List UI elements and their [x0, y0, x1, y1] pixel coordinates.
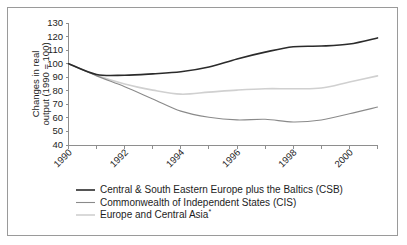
legend-footnote-marker: *	[208, 208, 211, 215]
y-tick-label-130: 130	[47, 17, 63, 28]
y-tick-label-70: 70	[52, 98, 63, 109]
chart-legend: Central & South Eastern Europe plus the …	[76, 184, 343, 220]
series-lines	[69, 38, 378, 122]
x-tick-label-1992: 1992	[107, 147, 130, 170]
y-tick-label-40: 40	[52, 139, 63, 150]
series-line-3	[69, 64, 378, 95]
y-tick-label-80: 80	[52, 85, 63, 96]
y-tick-label-90: 90	[52, 71, 63, 82]
legend-label-1: Central & South Eastern Europe plus the …	[100, 184, 343, 195]
y-tick-label-60: 60	[52, 112, 63, 123]
x-tick-label-2000: 2000	[332, 147, 355, 170]
y-axis-title-line-2: output (1990 = 100)	[40, 42, 51, 125]
series-line-2	[69, 64, 378, 122]
legend-label-2: Commonwealth of Independent States (CIS)	[100, 197, 296, 208]
x-tick-label-1996: 1996	[220, 147, 243, 170]
x-tick-label-1990: 1990	[51, 147, 74, 170]
x-tick-label-1998: 1998	[276, 147, 299, 170]
y-axis-title: Changes in realoutput (1990 = 100)	[30, 42, 51, 125]
line-chart: 405060708090100110120130 199019921994199…	[0, 0, 407, 245]
series-line-1	[69, 38, 378, 76]
legend-label-3: Europe and Central Asia*	[100, 208, 211, 220]
x-tick-label-1994: 1994	[164, 147, 187, 170]
y-tick-label-120: 120	[47, 31, 63, 42]
figure-container: 405060708090100110120130 199019921994199…	[0, 0, 407, 245]
y-tick-label-50: 50	[52, 125, 63, 136]
x-axis: 199019921994199619982000	[51, 145, 377, 169]
